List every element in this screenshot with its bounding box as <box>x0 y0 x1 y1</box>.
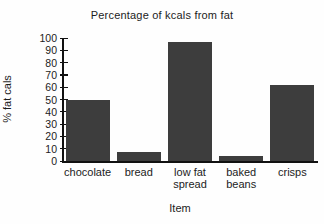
chart-title: Percentage of kcals from fat <box>0 9 324 21</box>
y-tick-mark <box>60 62 68 63</box>
y-tick-mark <box>60 74 68 75</box>
y-tick-label: 50 <box>27 95 57 105</box>
bar-chocolate <box>66 100 110 162</box>
y-tick-label: 90 <box>27 45 57 55</box>
y-tick-label: 10 <box>27 144 57 154</box>
x-category-label: crisps <box>262 167 322 179</box>
y-tick-label: 70 <box>27 70 57 80</box>
y-tick-label: 0 <box>27 156 57 166</box>
y-tick-mark <box>60 50 68 51</box>
y-tick-label: 20 <box>27 131 57 141</box>
y-tick-label: 100 <box>27 33 57 43</box>
bar-chart: Percentage of kcals from fat % fat cals … <box>0 0 324 224</box>
bar-low-fat-spread <box>168 42 212 161</box>
x-axis-label: Item <box>152 202 208 214</box>
y-tick-mark <box>60 87 68 88</box>
bar-crisps <box>270 85 314 161</box>
x-axis-line <box>62 161 318 163</box>
y-tick-label: 40 <box>27 107 57 117</box>
y-axis-label: % fat cals <box>1 66 13 132</box>
y-tick-label: 60 <box>27 82 57 92</box>
bar-baked-beans <box>219 156 263 161</box>
y-tick-mark <box>60 38 68 39</box>
y-tick-label: 30 <box>27 119 57 129</box>
y-axis-line <box>62 38 64 163</box>
bar-bread <box>117 152 161 161</box>
y-tick-label: 80 <box>27 58 57 68</box>
